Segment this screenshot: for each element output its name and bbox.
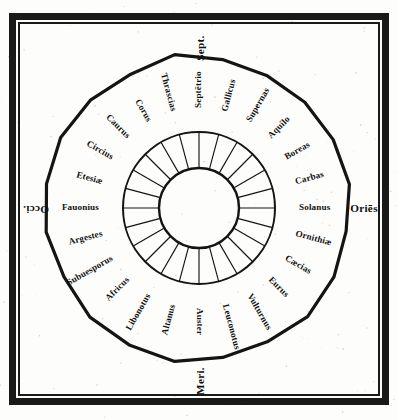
wheel-spoke <box>209 247 218 282</box>
wind-label-vulturnus: Vulturnus <box>245 292 274 332</box>
wind-label-africus: Africus <box>103 274 131 302</box>
wheel-spoke <box>145 236 170 261</box>
wind-label-etesi: Etesiæ <box>76 170 105 187</box>
wheel-spoke <box>161 243 179 274</box>
spoke-wheel <box>123 132 275 284</box>
wind-name-group: SeptētrioGallicusSupernasAquiloBoreasCar… <box>62 71 333 351</box>
wind-label-fauonius: Fauonius <box>62 202 99 212</box>
wind-label-auster: Auster <box>195 308 205 335</box>
wheel-spoke <box>234 170 265 188</box>
wind-label-solanus: Solanus <box>299 202 331 212</box>
wind-label-supernas: Supernas <box>244 86 272 124</box>
wheel-spoke <box>238 188 273 197</box>
wheel-spokes <box>123 132 275 284</box>
cardinal-label-north: Sept. <box>194 35 206 60</box>
wheel-spoke <box>133 170 164 188</box>
wheel-spoke <box>133 228 164 246</box>
wind-rose-diagram: SeptētrioGallicusSupernasAquiloBoreasCar… <box>0 0 398 420</box>
cardinal-label-south: Meri. <box>194 367 206 395</box>
wind-label-corus: Corus <box>133 97 154 123</box>
wind-label-gallicus: Gallicus <box>219 78 237 113</box>
wheel-spoke <box>238 218 273 227</box>
wheel-spoke <box>219 142 237 173</box>
wind-label-boreas: Boreas <box>283 139 312 162</box>
wind-label-circius: Circius <box>85 138 116 161</box>
wind-label-leuconotus: Leuconotus <box>221 303 243 351</box>
wind-label-subuesporus: Subuesporus <box>65 253 115 288</box>
wheel-spoke <box>227 154 252 179</box>
wind-label-septtrio: Septētrio <box>193 71 203 108</box>
wind-label-aquilo: Aquilo <box>266 114 293 141</box>
wind-label-caurus: Caurus <box>104 112 132 140</box>
wind-label-ccias: Cæcias <box>284 253 314 276</box>
woodcut-page: SeptētrioGallicusSupernasAquiloBoreasCar… <box>0 0 398 420</box>
cardinal-label-west: Occi. <box>23 204 49 216</box>
wheel-spoke <box>219 243 237 274</box>
wind-label-thrascias: Thrascias <box>159 72 179 113</box>
wind-label-altanus: Altanus <box>159 303 177 336</box>
wheel-spoke <box>179 247 188 282</box>
wheel-spoke <box>126 188 161 197</box>
wheel-spoke <box>161 142 179 173</box>
wind-label-argestes: Argestes <box>68 228 104 247</box>
wind-label-eurus: Eurus <box>267 275 292 300</box>
wheel-spoke <box>227 236 252 261</box>
wheel-spoke <box>126 218 161 227</box>
wheel-spoke <box>234 228 265 246</box>
wheel-spoke <box>145 154 170 179</box>
wind-label-carbas: Carbas <box>294 169 325 186</box>
wind-label-ornithi: Ornithiæ <box>295 228 334 247</box>
wind-label-libonotus: Libonotus <box>123 291 152 332</box>
wheel-spoke <box>209 135 218 170</box>
cardinal-label-east: Oriēs <box>350 202 378 214</box>
wheel-spoke <box>179 135 188 170</box>
